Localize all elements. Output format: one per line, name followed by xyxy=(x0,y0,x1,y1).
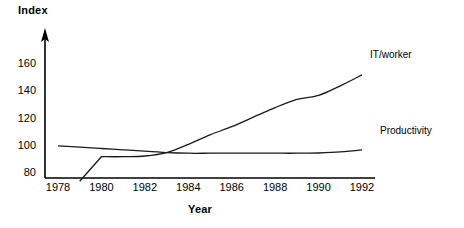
chart-plot-area xyxy=(0,0,464,228)
series-label-productivity: Productivity xyxy=(380,125,432,136)
data-series-group xyxy=(58,75,362,181)
series-label-it-worker: IT/worker xyxy=(370,49,412,60)
axis-lines xyxy=(41,28,375,178)
chart-container: Index Year 80100120140160 19781980198219… xyxy=(0,0,464,228)
series-line-it-worker xyxy=(80,75,362,181)
series-line-productivity xyxy=(58,146,362,153)
